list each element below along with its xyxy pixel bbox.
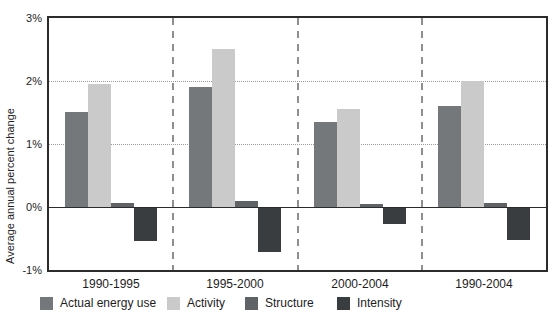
panel-separator-2 xyxy=(297,18,299,270)
legend-swatch-activity xyxy=(167,297,180,310)
legend-label-activity: Activity xyxy=(187,296,225,310)
panel-separator-1 xyxy=(172,18,174,270)
bar-structure-1990-1995 xyxy=(111,203,134,207)
bar-structure-1995-2000 xyxy=(235,201,258,207)
legend-item-structure: Structure xyxy=(245,296,314,310)
x-label-1995-2000: 1995-2000 xyxy=(173,277,297,291)
y-tick-0pct: 0% xyxy=(6,200,42,214)
bar-activity-1990-1995 xyxy=(88,84,111,207)
y-axis-title: Average annual percent change xyxy=(4,108,16,264)
bar-actual-energy-use-1990-2004 xyxy=(438,106,461,207)
bar-intensity-1990-1995 xyxy=(134,208,157,241)
x-label-2000-2004: 2000-2004 xyxy=(298,277,422,291)
bar-actual-energy-use-2000-2004 xyxy=(314,122,337,207)
zero-axis-line xyxy=(49,207,546,208)
bar-activity-2000-2004 xyxy=(337,109,360,207)
bar-structure-1990-2004 xyxy=(484,203,507,207)
plot-area xyxy=(47,16,548,272)
bar-actual-energy-use-1990-1995 xyxy=(65,112,88,207)
x-label-1990-2004: 1990-2004 xyxy=(422,277,546,291)
chart-canvas: Average annual percent change 3% 2% 1% 0… xyxy=(0,0,554,320)
legend-item-intensity: Intensity xyxy=(337,296,402,310)
legend-item-activity: Activity xyxy=(167,296,225,310)
y-tick-2pct: 2% xyxy=(6,74,42,88)
bar-activity-1995-2000 xyxy=(212,49,235,207)
bar-structure-2000-2004 xyxy=(360,204,383,207)
bar-intensity-1990-2004 xyxy=(507,208,530,240)
legend-swatch-structure xyxy=(245,297,258,310)
bar-intensity-1995-2000 xyxy=(258,208,281,252)
y-tick-1pct: 1% xyxy=(6,137,42,151)
y-tick-neg1pct: -1% xyxy=(6,263,42,277)
bar-actual-energy-use-1995-2000 xyxy=(189,87,212,207)
legend-label-intensity: Intensity xyxy=(357,296,402,310)
legend-swatch-actual-energy-use xyxy=(40,297,53,310)
legend-label-actual-energy-use: Actual energy use xyxy=(60,296,156,310)
y-tick-3pct: 3% xyxy=(6,11,42,25)
x-label-1990-1995: 1990-1995 xyxy=(49,277,173,291)
legend-item-actual-energy-use: Actual energy use xyxy=(40,296,156,310)
legend-label-structure: Structure xyxy=(265,296,314,310)
bar-activity-1990-2004 xyxy=(461,81,484,207)
legend-swatch-intensity xyxy=(337,297,350,310)
panel-separator-3 xyxy=(421,18,423,270)
bar-intensity-2000-2004 xyxy=(383,208,406,224)
